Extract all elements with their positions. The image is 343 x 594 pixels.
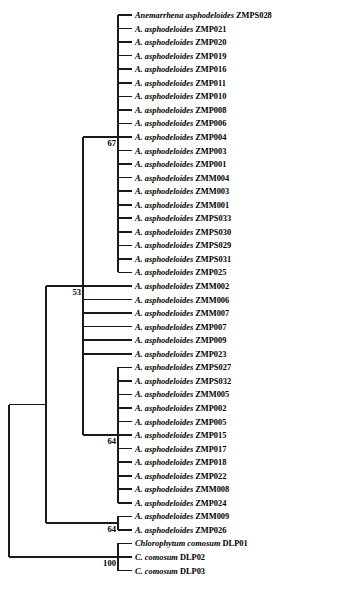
accession-code: ZMP019 (193, 51, 226, 60)
taxon-name: A. asphodeloides (135, 498, 193, 507)
taxon-name: A. asphodeloides (135, 105, 193, 114)
phylogenetic-tree-figure: Anemarrhena asphodeloides ZMPS028A. asph… (0, 0, 343, 594)
accession-code: DLP02 (178, 553, 205, 562)
taxon-name: A. asphodeloides (135, 160, 193, 169)
tip-label: A. asphodeloides ZMM009 (135, 512, 229, 521)
accession-code: ZMM003 (193, 187, 229, 196)
accession-code: ZMPS033 (193, 214, 231, 223)
accession-code: ZMP004 (193, 132, 226, 141)
tip-label: A. asphodeloides ZMP024 (135, 498, 226, 507)
tip-label: A. asphodeloides ZMP008 (135, 105, 226, 114)
tip-label: A. asphodeloides ZMP021 (135, 24, 226, 33)
accession-code: ZMPS030 (193, 227, 231, 236)
taxon-name: A. asphodeloides (135, 92, 193, 101)
taxon-name: A. asphodeloides (135, 444, 193, 453)
tip-label: A. asphodeloides ZMP010 (135, 92, 226, 101)
taxon-name: A. asphodeloides (135, 336, 193, 345)
accession-code: ZMM005 (193, 390, 229, 399)
tip-label: A. asphodeloides ZMPS032 (135, 376, 231, 385)
tip-label: A. asphodeloides ZMM001 (135, 200, 229, 209)
accession-code: ZMP018 (193, 458, 226, 467)
tip-label: A. asphodeloides ZMP003 (135, 146, 226, 155)
taxon-name: A. asphodeloides (135, 376, 193, 385)
tip-label: A. asphodeloides ZMP026 (135, 525, 226, 534)
accession-code: ZMPS029 (193, 241, 231, 250)
taxon-name: A. asphodeloides (135, 132, 193, 141)
bootstrap-value: 53 (72, 287, 81, 297)
bootstrap-value: 100 (103, 558, 116, 568)
accession-code: DLP03 (178, 566, 205, 575)
tip-label: A. asphodeloides ZMP017 (135, 444, 226, 453)
taxon-name: A. asphodeloides (135, 173, 193, 182)
taxon-name: A. asphodeloides (135, 525, 193, 534)
accession-code: ZMP007 (193, 322, 226, 331)
accession-code: ZMP021 (193, 24, 226, 33)
tip-label: A. asphodeloides ZMP001 (135, 160, 226, 169)
taxon-name: Chlorophytum comosum (135, 539, 220, 548)
tip-label: A. asphodeloides ZMM005 (135, 390, 229, 399)
bootstrap-value: 64 (107, 524, 116, 534)
tip-label: A. asphodeloides ZMM006 (135, 295, 229, 304)
taxon-name: A. asphodeloides (135, 268, 193, 277)
tip-label: C. comosum DLP02 (135, 553, 205, 562)
taxon-name: A. asphodeloides (135, 431, 193, 440)
tip-label: A. asphodeloides ZMPS030 (135, 227, 231, 236)
accession-code: ZMP020 (193, 38, 226, 47)
accession-code: ZMP011 (193, 78, 226, 87)
accession-code: DLP01 (220, 539, 247, 548)
accession-code: ZMP024 (193, 498, 226, 507)
accession-code: ZMP017 (193, 444, 226, 453)
taxon-name: C. comosum (135, 553, 178, 562)
taxon-name: A. asphodeloides (135, 322, 193, 331)
tip-label: A. asphodeloides ZMPS029 (135, 241, 231, 250)
accession-code: ZMM008 (193, 485, 229, 494)
accession-code: ZMM004 (193, 173, 229, 182)
accession-code: ZMM002 (193, 282, 229, 291)
tip-label: Anemarrhena asphodeloides ZMPS028 (135, 11, 272, 20)
accession-code: ZMM009 (193, 512, 229, 521)
accession-code: ZMM007 (193, 309, 229, 318)
tip-label: A. asphodeloides ZMP023 (135, 349, 226, 358)
accession-code: ZMM006 (193, 295, 229, 304)
tip-label: A. asphodeloides ZMP016 (135, 65, 226, 74)
taxon-name: A. asphodeloides (135, 200, 193, 209)
taxon-name: A. asphodeloides (135, 187, 193, 196)
tip-label: Chlorophytum comosum DLP01 (135, 539, 248, 548)
taxon-name: A. asphodeloides (135, 51, 193, 60)
accession-code: ZMP022 (193, 471, 226, 480)
bootstrap-value: 64 (107, 436, 116, 446)
tip-label: A. asphodeloides ZMPS027 (135, 363, 231, 372)
tip-label: A. asphodeloides ZMP005 (135, 417, 226, 426)
accession-code: ZMPS031 (193, 254, 231, 263)
accession-code: ZMP003 (193, 146, 226, 155)
taxon-name: A. asphodeloides (135, 146, 193, 155)
taxon-name: A. asphodeloides (135, 24, 193, 33)
taxon-name: A. asphodeloides (135, 471, 193, 480)
taxon-name: A. asphodeloides (135, 65, 193, 74)
taxon-name: A. asphodeloides (135, 485, 193, 494)
accession-code: ZMPS027 (193, 363, 231, 372)
taxon-name: C. comosum (135, 566, 178, 575)
taxon-name: A. asphodeloides (135, 512, 193, 521)
accession-code: ZMPS028 (234, 11, 272, 20)
accession-code: ZMPS032 (193, 376, 231, 385)
tip-label: A. asphodeloides ZMM003 (135, 187, 229, 196)
tip-label: A. asphodeloides ZMP020 (135, 38, 226, 47)
tip-label: A. asphodeloides ZMPS033 (135, 214, 231, 223)
taxon-name: A. asphodeloides (135, 254, 193, 263)
accession-code: ZMP015 (193, 431, 226, 440)
accession-code: ZMP008 (193, 105, 226, 114)
tip-label: A. asphodeloides ZMM007 (135, 309, 229, 318)
tip-label: A. asphodeloides ZMP002 (135, 403, 226, 412)
taxon-name: A. asphodeloides (135, 227, 193, 236)
tip-label: A. asphodeloides ZMM002 (135, 282, 229, 291)
tip-label: A. asphodeloides ZMPS031 (135, 254, 231, 263)
tip-label: A. asphodeloides ZMP006 (135, 119, 226, 128)
accession-code: ZMP001 (193, 160, 226, 169)
accession-code: ZMM001 (193, 200, 229, 209)
tip-label: A. asphodeloides ZMP015 (135, 431, 226, 440)
taxon-name: A. asphodeloides (135, 38, 193, 47)
taxon-name: Anemarrhena asphodeloides (135, 11, 234, 20)
taxon-name: A. asphodeloides (135, 78, 193, 87)
taxon-name: A. asphodeloides (135, 214, 193, 223)
